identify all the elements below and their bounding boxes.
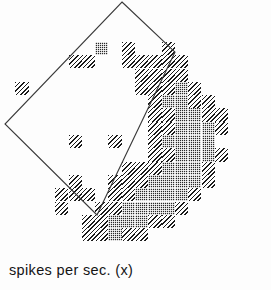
heatmap-cell <box>175 162 188 175</box>
heatmap-cell <box>135 162 148 175</box>
heatmap-cell <box>202 108 215 121</box>
heatmap-cell <box>148 82 161 95</box>
heatmap-cell <box>69 135 82 148</box>
heatmap-cell <box>108 202 121 215</box>
heatmap-cell <box>175 55 188 68</box>
heatmap-cell <box>148 69 161 82</box>
heatmap-cell <box>215 108 228 121</box>
heatmap-cell <box>202 148 215 161</box>
heatmap-cell <box>162 122 175 135</box>
heatmap-cell <box>148 175 161 188</box>
heatmap-cell <box>148 148 161 161</box>
heatmap-cell <box>175 82 188 95</box>
heatmap-cell <box>69 55 82 68</box>
figure-panel: spikes per sec. (x) <box>0 0 271 290</box>
heatmap-cell <box>175 69 188 82</box>
heatmap-cell <box>108 215 121 228</box>
heatmap-cell <box>175 135 188 148</box>
heatmap-cell <box>215 148 228 161</box>
heatmap-cell <box>162 108 175 121</box>
heatmap-cell <box>82 228 95 241</box>
heatmap-cell <box>162 162 175 175</box>
heatmap-cell-grid <box>0 0 271 258</box>
heatmap-cell <box>162 202 175 215</box>
heatmap-cell <box>122 202 135 215</box>
heatmap-cell <box>162 55 175 68</box>
density-map-plot <box>0 0 271 258</box>
heatmap-cell <box>135 228 148 241</box>
heatmap-cell <box>135 215 148 228</box>
heatmap-cell <box>148 108 161 121</box>
heatmap-cell <box>108 135 121 148</box>
heatmap-cell <box>15 82 28 95</box>
heatmap-cell <box>122 228 135 241</box>
heatmap-cell <box>202 122 215 135</box>
heatmap-cell <box>188 82 201 95</box>
heatmap-cell <box>69 175 82 188</box>
heatmap-cell <box>108 175 121 188</box>
x-axis-label: spikes per sec. (x) <box>9 262 133 278</box>
heatmap-cell <box>162 69 175 82</box>
heatmap-cell <box>108 188 121 201</box>
heatmap-cell <box>82 188 95 201</box>
heatmap-cell <box>162 82 175 95</box>
heatmap-cell <box>175 175 188 188</box>
heatmap-cell <box>95 42 108 55</box>
heatmap-cell <box>202 95 215 108</box>
heatmap-cell <box>95 215 108 228</box>
heatmap-cell <box>148 135 161 148</box>
heatmap-cell <box>188 108 201 121</box>
heatmap-cell <box>95 228 108 241</box>
heatmap-cell <box>162 95 175 108</box>
heatmap-cell <box>122 55 135 68</box>
heatmap-cell <box>175 202 188 215</box>
heatmap-cell <box>188 122 201 135</box>
heatmap-cell <box>82 215 95 228</box>
heatmap-cell <box>188 135 201 148</box>
heatmap-cell <box>188 188 201 201</box>
heatmap-cell <box>135 188 148 201</box>
heatmap-cell <box>122 188 135 201</box>
heatmap-cell <box>175 108 188 121</box>
heatmap-cell <box>148 95 161 108</box>
heatmap-cell <box>148 55 161 68</box>
heatmap-cell <box>95 202 108 215</box>
heatmap-cell <box>188 95 201 108</box>
heatmap-cell <box>202 162 215 175</box>
heatmap-cell <box>108 228 121 241</box>
heatmap-cell <box>55 188 68 201</box>
heatmap-cell <box>135 69 148 82</box>
heatmap-cell <box>188 175 201 188</box>
heatmap-cell <box>135 55 148 68</box>
heatmap-cell <box>148 122 161 135</box>
heatmap-cell <box>122 175 135 188</box>
heatmap-cell <box>188 162 201 175</box>
heatmap-cell <box>162 175 175 188</box>
heatmap-cell <box>122 42 135 55</box>
heatmap-cell <box>175 188 188 201</box>
heatmap-cell <box>135 82 148 95</box>
heatmap-cell <box>148 162 161 175</box>
heatmap-cell <box>148 202 161 215</box>
heatmap-cell <box>175 148 188 161</box>
heatmap-cell <box>162 188 175 201</box>
heatmap-cell <box>175 122 188 135</box>
heatmap-cell <box>215 122 228 135</box>
heatmap-cell <box>148 188 161 201</box>
heatmap-cell <box>175 95 188 108</box>
heatmap-cell <box>135 175 148 188</box>
heatmap-cell <box>162 148 175 161</box>
heatmap-cell <box>162 215 175 228</box>
heatmap-cell <box>202 135 215 148</box>
heatmap-cell <box>162 42 175 55</box>
heatmap-cell <box>148 215 161 228</box>
heatmap-cell <box>55 202 68 215</box>
heatmap-cell <box>82 55 95 68</box>
heatmap-cell <box>122 215 135 228</box>
heatmap-cell <box>188 148 201 161</box>
heatmap-cell <box>135 202 148 215</box>
heatmap-cell <box>122 162 135 175</box>
heatmap-cell <box>69 188 82 201</box>
heatmap-cell <box>162 135 175 148</box>
heatmap-cell <box>202 175 215 188</box>
